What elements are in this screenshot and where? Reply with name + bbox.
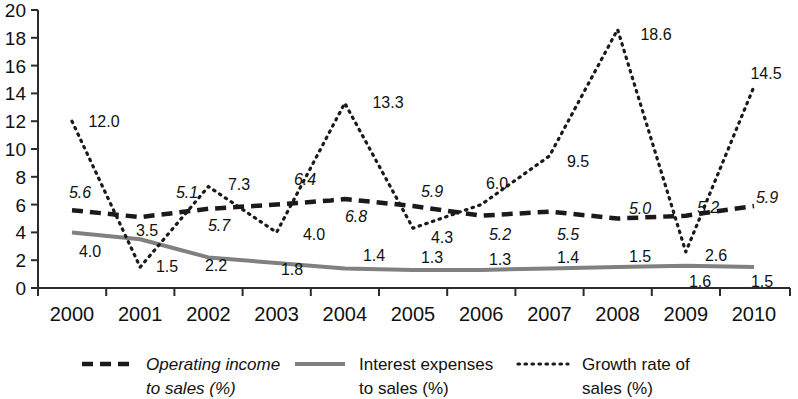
operating-income-value-label: 5.2 — [697, 199, 719, 216]
legend-label-line2: sales (%) — [582, 379, 653, 398]
legend-item-2[interactable]: Interest expensesto sales (%) — [295, 355, 493, 398]
growth-rate-value-label: 18.6 — [640, 26, 671, 43]
operating-income-value-label: 5.1 — [176, 184, 198, 201]
y-tick-label: 2 — [15, 250, 26, 271]
x-tick-label: 2002 — [186, 303, 231, 325]
interest-expenses-value-label: 1.4 — [363, 247, 385, 264]
interest-expenses-value-label: 1.5 — [629, 248, 651, 265]
y-axis-tick-labels: 20181614121086420 — [5, 0, 27, 299]
growth-rate-value-label: 6.0 — [486, 175, 508, 192]
operating-income-value-label: 5.2 — [489, 226, 511, 243]
interest-expenses-value-label: 1.3 — [489, 251, 511, 268]
line-chart: 20181614121086420 2000200120022003200420… — [0, 0, 798, 399]
y-tick-label: 20 — [5, 0, 26, 21]
y-tick-label: 8 — [15, 167, 26, 188]
operating-income-value-label: 5.7 — [208, 217, 231, 234]
series-line-3 — [72, 30, 754, 268]
y-tick-label: 10 — [5, 139, 26, 160]
operating-income-value-label: 5.9 — [756, 189, 778, 206]
interest-expenses-value-label: 1.3 — [421, 249, 443, 266]
interest-expenses-value-label: 2.2 — [205, 257, 227, 274]
y-tick-label: 0 — [15, 278, 26, 299]
interest-expenses-value-label: 1.4 — [557, 249, 579, 266]
axis-lines — [38, 10, 790, 288]
legend-label-line1: Growth rate of — [582, 355, 690, 374]
x-tick-label: 2003 — [254, 303, 299, 325]
x-tick-label: 2007 — [527, 303, 572, 325]
x-tick-label: 2005 — [391, 303, 436, 325]
growth-rate-value-label: 9.5 — [567, 153, 589, 170]
chart-legend: Operating incometo sales (%)Interest exp… — [82, 355, 690, 398]
x-tick-label: 2001 — [118, 303, 163, 325]
operating-income-value-label: 5.0 — [629, 200, 651, 217]
interest-expenses-value-label: 1.8 — [281, 261, 303, 278]
x-tick-label: 2004 — [323, 303, 368, 325]
legend-item-1[interactable]: Operating incometo sales (%) — [82, 355, 280, 398]
growth-rate-value-label: 13.3 — [372, 94, 403, 111]
chart-container: 20181614121086420 2000200120022003200420… — [0, 0, 798, 399]
growth-rate-value-label: 1.5 — [156, 258, 178, 275]
operating-income-value-label: 5.5 — [557, 226, 579, 243]
legend-label-line2: to sales (%) — [146, 379, 236, 398]
x-tick-label: 2009 — [664, 303, 709, 325]
legend-label-line2: to sales (%) — [359, 379, 449, 398]
growth-rate-value-label: 4.0 — [303, 226, 325, 243]
interest-expenses-value-label: 3.5 — [136, 222, 158, 239]
growth-rate-value-label: 12.0 — [88, 113, 119, 130]
operating-income-value-label: 6.4 — [294, 171, 316, 188]
interest-expenses-value-label: 1.5 — [751, 273, 773, 290]
x-tick-label: 2000 — [50, 303, 95, 325]
y-tick-label: 4 — [15, 222, 26, 243]
legend-item-3[interactable]: Growth rate ofsales (%) — [518, 355, 690, 398]
growth-rate-value-label: 14.5 — [750, 65, 781, 82]
y-tick-label: 12 — [5, 111, 26, 132]
growth-rate-value-label: 2.6 — [705, 247, 727, 264]
y-tick-label: 16 — [5, 56, 26, 77]
x-tick-label: 2010 — [732, 303, 777, 325]
growth-rate-value-label: 4.3 — [431, 229, 453, 246]
x-tick-label: 2006 — [459, 303, 504, 325]
operating-income-value-label: 6.8 — [345, 208, 367, 225]
legend-label-line1: Interest expenses — [359, 355, 493, 374]
growth-rate-value-label: 7.3 — [228, 176, 250, 193]
y-tick-label: 6 — [15, 195, 26, 216]
y-tick-label: 18 — [5, 28, 26, 49]
x-axis-tick-labels: 2000200120022003200420052006200720082009… — [50, 303, 777, 325]
series-line-1 — [72, 199, 754, 219]
legend-label-line1: Operating income — [146, 355, 280, 374]
operating-income-value-label: 5.6 — [69, 184, 91, 201]
interest-expenses-value-label: 4.0 — [79, 243, 101, 260]
x-tick-label: 2008 — [595, 303, 640, 325]
data-series — [72, 30, 754, 270]
interest-expenses-value-label: 1.6 — [689, 273, 711, 290]
operating-income-value-label: 5.9 — [421, 183, 443, 200]
axes — [31, 10, 790, 296]
y-tick-label: 14 — [5, 83, 27, 104]
